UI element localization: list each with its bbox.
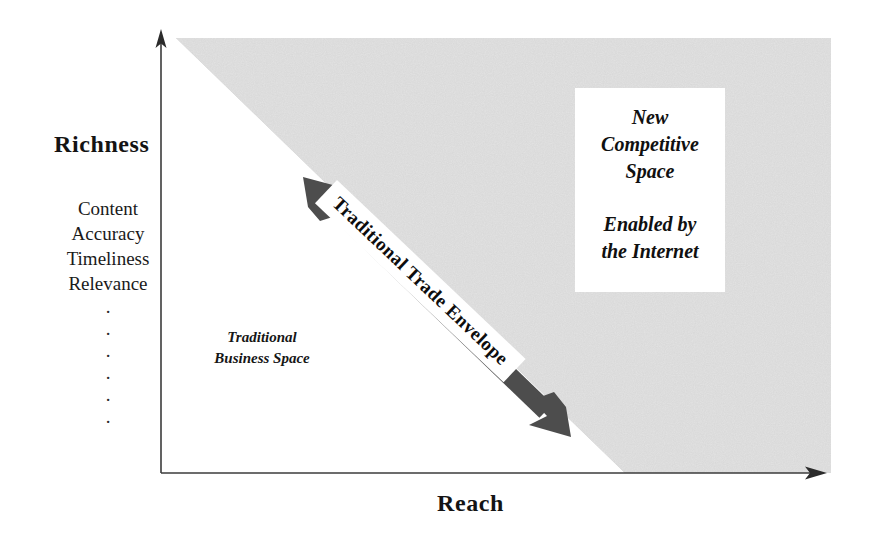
richness-attribute: Relevance <box>52 271 164 296</box>
new-space-line-4: Enabled by <box>604 211 697 238</box>
new-competitive-space-region <box>160 30 835 475</box>
continuation-dot: . <box>52 340 164 362</box>
new-space-line-1: New <box>632 104 669 131</box>
richness-attribute-list: Content Accuracy Timeliness Relevance . … <box>52 196 164 428</box>
continuation-dot: . <box>52 296 164 318</box>
continuation-dot: . <box>52 384 164 406</box>
richness-attribute: Timeliness <box>52 246 164 271</box>
continuation-dot: . <box>52 318 164 340</box>
new-competitive-space-textbox: New Competitive Space Enabled by the Int… <box>575 88 725 292</box>
richness-attribute: Content <box>52 196 164 221</box>
new-space-line-5: the Internet <box>601 238 698 265</box>
region-texture <box>176 38 831 473</box>
new-space-line-2: Competitive <box>601 131 699 158</box>
x-axis-title: Reach <box>437 490 504 517</box>
y-axis-title: Richness <box>54 131 149 158</box>
continuation-dot: . <box>52 406 164 428</box>
new-space-line-3: Space <box>626 158 675 185</box>
traditional-space-line-2: Business Space <box>182 348 342 369</box>
richness-continuation-dots: . . . . . . <box>52 296 164 428</box>
traditional-space-line-1: Traditional <box>182 327 342 348</box>
diagram-canvas: New Competitive Space Enabled by the Int… <box>0 0 871 538</box>
richness-attribute: Accuracy <box>52 221 164 246</box>
continuation-dot: . <box>52 362 164 384</box>
traditional-business-space-label: Traditional Business Space <box>182 327 342 369</box>
